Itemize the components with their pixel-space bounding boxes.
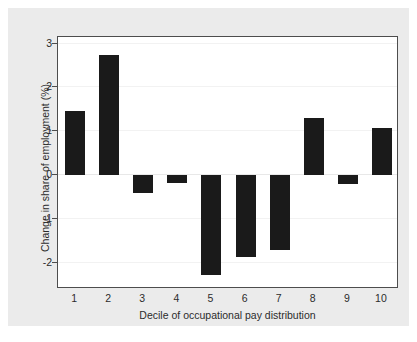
- gridline: [58, 262, 397, 263]
- x-tick-label: 10: [366, 292, 396, 304]
- bar: [338, 175, 358, 184]
- x-tick-label: 4: [161, 292, 191, 304]
- bar: [236, 175, 256, 257]
- bar: [304, 118, 324, 175]
- x-tick-label: 2: [93, 292, 123, 304]
- x-tick-label: 8: [298, 292, 328, 304]
- plot-area: [57, 36, 398, 288]
- bar: [65, 111, 85, 175]
- x-axis-title: Decile of occupational pay distribution: [57, 309, 398, 321]
- x-tick-label: 1: [59, 292, 89, 304]
- bar: [201, 175, 221, 275]
- gridline: [58, 218, 397, 219]
- bar: [167, 175, 187, 183]
- gridline: [58, 43, 397, 44]
- bar: [372, 128, 392, 175]
- x-tick-label: 3: [127, 292, 157, 304]
- y-axis-title: Change in share of employment (%): [39, 42, 51, 294]
- bar: [133, 175, 153, 193]
- bar: [270, 175, 290, 250]
- x-tick-label: 7: [264, 292, 294, 304]
- bar: [99, 55, 119, 176]
- chart-figure: 3210-1-2 12345678910 Decile of occupatio…: [0, 0, 417, 342]
- x-tick-label: 9: [332, 292, 362, 304]
- x-tick-label: 5: [195, 292, 225, 304]
- x-tick-label: 6: [230, 292, 260, 304]
